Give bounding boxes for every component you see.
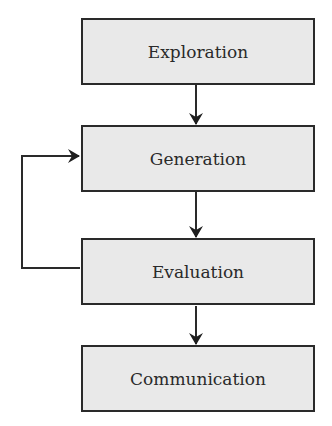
- node-communication: Communication: [81, 345, 315, 412]
- node-label: Generation: [150, 149, 246, 169]
- flowchart: Exploration Generation Evaluation Commun…: [0, 0, 332, 426]
- node-evaluation: Evaluation: [81, 238, 315, 305]
- node-exploration: Exploration: [81, 18, 315, 85]
- node-label: Communication: [130, 369, 266, 389]
- feedback-loop-arrow: [22, 156, 80, 268]
- node-label: Exploration: [148, 42, 248, 62]
- node-label: Evaluation: [152, 262, 244, 282]
- node-generation: Generation: [81, 125, 315, 192]
